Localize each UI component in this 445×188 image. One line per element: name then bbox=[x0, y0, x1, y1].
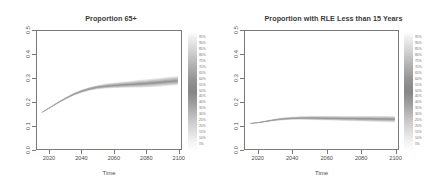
y-tick-label: 0.4 bbox=[233, 50, 239, 58]
legend-label: 35% bbox=[199, 108, 206, 111]
quantile-edge bbox=[42, 85, 178, 113]
legend-label: 45% bbox=[415, 96, 422, 99]
legend-label: 15% bbox=[415, 131, 422, 134]
legend-label: 60% bbox=[199, 78, 206, 81]
legend-labels-right: 95%90%85%80%75%70%65%60%55%50%45%40%35%3… bbox=[415, 32, 435, 151]
legend-label: 50% bbox=[199, 90, 206, 93]
y-tick bbox=[240, 78, 244, 79]
x-tick bbox=[292, 150, 293, 154]
legend-label: 15% bbox=[199, 131, 206, 134]
quantile-edge bbox=[42, 82, 178, 112]
y-tick-label: 0.0 bbox=[25, 146, 31, 154]
legend-label: 40% bbox=[415, 102, 422, 105]
chart-panels: Proportion 65+ 0.00.10.20.30.40.5 202020… bbox=[0, 0, 445, 188]
legend-label: 85% bbox=[199, 48, 206, 51]
legend-label: 60% bbox=[415, 78, 422, 81]
y-tick-label: 0.3 bbox=[233, 74, 239, 82]
legend-label: 80% bbox=[199, 54, 206, 57]
y-tick bbox=[32, 126, 36, 127]
x-tick-label: 2080 bbox=[355, 155, 367, 161]
x-axis-title-right: Time bbox=[244, 170, 399, 176]
x-axis-title-left: Time bbox=[36, 170, 182, 176]
legend-label: 65% bbox=[415, 72, 422, 75]
y-tick bbox=[240, 30, 244, 31]
y-tick-label: 0.2 bbox=[25, 98, 31, 106]
legend-label: 20% bbox=[415, 126, 422, 129]
legend-label: 40% bbox=[199, 102, 206, 105]
y-axis-right: 0.00.10.20.30.40.5 bbox=[239, 30, 244, 150]
legend-label: 35% bbox=[415, 108, 422, 111]
x-tick-label: 2060 bbox=[320, 155, 332, 161]
y-tick bbox=[32, 30, 36, 31]
x-tick bbox=[81, 150, 82, 154]
legend-label: 45% bbox=[199, 96, 206, 99]
x-tick bbox=[146, 150, 147, 154]
y-tick bbox=[32, 54, 36, 55]
y-tick-label: 0.5 bbox=[233, 26, 239, 34]
y-tick bbox=[240, 54, 244, 55]
y-tick-label: 0.0 bbox=[233, 146, 239, 154]
legend-label: 70% bbox=[415, 66, 422, 69]
x-tick-label: 2020 bbox=[43, 155, 55, 161]
legend-labels-left: 95%90%85%80%75%70%65%60%55%50%45%40%35%3… bbox=[199, 32, 219, 151]
x-tick bbox=[114, 150, 115, 154]
legend-label: 95% bbox=[199, 36, 206, 39]
x-axis-right: 20202040206020802100 bbox=[244, 150, 399, 155]
x-tick-label: 2060 bbox=[108, 155, 120, 161]
legend-label: 20% bbox=[199, 126, 206, 129]
fan-chart-right bbox=[245, 31, 398, 149]
x-tick bbox=[49, 150, 50, 154]
x-tick bbox=[327, 150, 328, 154]
legend-label: 25% bbox=[415, 120, 422, 123]
panel-proportion-rle-under-15: Proportion with RLE Less than 15 Years 0… bbox=[222, 0, 445, 188]
page-title: Proportion 65+ bbox=[0, 14, 222, 23]
legend-label: 90% bbox=[199, 42, 206, 45]
legend-label: 55% bbox=[199, 84, 206, 87]
legend-label: 30% bbox=[415, 114, 422, 117]
x-tick-label: 2080 bbox=[140, 155, 152, 161]
panel-proportion-65plus: Proportion 65+ 0.00.10.20.30.40.5 202020… bbox=[0, 0, 222, 188]
page-title-right: Proportion with RLE Less than 15 Years bbox=[222, 14, 445, 23]
legend-label: 80% bbox=[415, 54, 422, 57]
plot-area-right bbox=[244, 30, 399, 150]
y-tick-label: 0.1 bbox=[233, 122, 239, 130]
legend-gradient-left bbox=[188, 32, 197, 151]
legend-label: 75% bbox=[415, 60, 422, 63]
legend-label: 10% bbox=[199, 137, 206, 140]
y-tick bbox=[32, 102, 36, 103]
legend-label: 25% bbox=[199, 120, 206, 123]
x-tick-label: 2040 bbox=[75, 155, 87, 161]
x-tick-label: 2100 bbox=[389, 155, 401, 161]
y-tick-label: 0.4 bbox=[25, 50, 31, 58]
legend-label: 90% bbox=[415, 42, 422, 45]
legend-label: 5% bbox=[199, 143, 204, 146]
fan-chart-left bbox=[37, 31, 181, 149]
legend-label: 95% bbox=[415, 36, 422, 39]
x-axis-left: 20202040206020802100 bbox=[36, 150, 182, 155]
legend-gradient-right bbox=[404, 32, 413, 151]
x-tick-label: 2040 bbox=[286, 155, 298, 161]
legend-colorbar-left: 95%90%85%80%75%70%65%60%55%50%45%40%35%3… bbox=[188, 32, 197, 151]
x-tick bbox=[361, 150, 362, 154]
x-tick-label: 2100 bbox=[173, 155, 185, 161]
legend-label: 30% bbox=[199, 114, 206, 117]
legend-label: 70% bbox=[199, 66, 206, 69]
y-tick-label: 0.1 bbox=[25, 122, 31, 130]
legend-label: 75% bbox=[199, 60, 206, 63]
plot-area-left bbox=[36, 30, 182, 150]
legend-label: 10% bbox=[415, 137, 422, 140]
y-tick bbox=[32, 78, 36, 79]
y-tick-label: 0.2 bbox=[233, 98, 239, 106]
x-tick bbox=[179, 150, 180, 154]
y-tick bbox=[240, 102, 244, 103]
legend-label: 85% bbox=[415, 48, 422, 51]
y-tick-label: 0.3 bbox=[25, 74, 31, 82]
legend-label: 50% bbox=[415, 90, 422, 93]
legend-label: 55% bbox=[415, 84, 422, 87]
legend-label: 65% bbox=[199, 72, 206, 75]
legend-colorbar-right: 95%90%85%80%75%70%65%60%55%50%45%40%35%3… bbox=[404, 32, 413, 151]
x-tick bbox=[258, 150, 259, 154]
y-tick bbox=[240, 126, 244, 127]
y-tick-label: 0.5 bbox=[25, 26, 31, 34]
y-axis-left: 0.00.10.20.30.40.5 bbox=[31, 30, 36, 150]
